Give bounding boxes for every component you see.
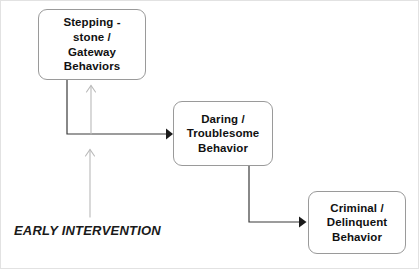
early-intervention-label: EARLY INTERVENTION <box>14 222 174 239</box>
node-daring-troublesome-behavior: Daring / Troublesome Behavior <box>173 101 273 166</box>
connector-daring-to-criminal <box>249 166 300 222</box>
connector-stepping-stone-to-daring <box>67 80 167 134</box>
arrowhead-to-criminal <box>299 217 307 228</box>
node-daring-label: Daring / Troublesome Behavior <box>183 112 264 156</box>
arrowhead-to-daring <box>166 129 173 140</box>
node-criminal-label: Criminal / Delinquent Behavior <box>323 201 391 245</box>
intervention-arrow-lower <box>86 150 95 218</box>
intervention-arrow-upper <box>87 86 96 135</box>
node-criminal-delinquent-behavior: Criminal / Delinquent Behavior <box>308 191 406 254</box>
node-stepping-stone-label: Stepping - stone / Gateway Behaviors <box>59 15 124 73</box>
node-stepping-stone-gateway-behaviors: Stepping - stone / Gateway Behaviors <box>38 9 146 80</box>
behavior-escalation-diagram: Stepping - stone / Gateway Behaviors Dar… <box>0 0 419 269</box>
